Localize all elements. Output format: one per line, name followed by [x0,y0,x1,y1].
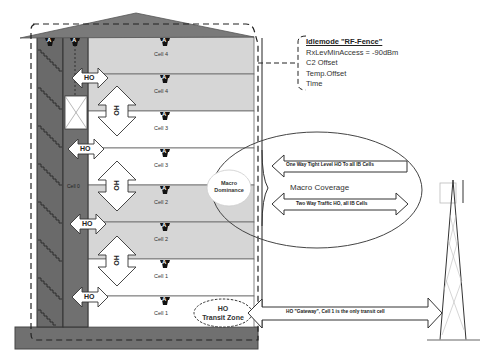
ho-label: HO [82,220,93,227]
text-layer: A A A A A A A A A A Cell 4 Cell 4 Cell 3… [0,0,496,364]
cell-label: Cell 1 [154,273,168,279]
antenna-label: A [72,37,76,43]
antenna-label: A [47,37,51,43]
elevator-cell-label: Cell 0 [67,183,80,189]
cell-label: Cell 3 [154,162,168,168]
antenna-label: A [162,148,166,154]
antenna-label: A [162,111,166,117]
one-way-arrow-label: One Way Tight Level HO To all IB Cells [286,162,406,167]
ho-label-vertical: HO [113,105,120,116]
idlemode-info-box: Idlemode "RF-Fence" RxLevMinAccess = -90… [306,37,398,90]
transit-zone-line2: Transit Zone [196,313,250,322]
idlemode-line: C2 Offset [306,58,398,69]
idlemode-line: RxLevMinAccess = -90dBm [306,48,398,59]
antenna-label: A [162,74,166,80]
macro-dominance-line1: Macro [210,180,248,187]
cell-label: Cell 4 [154,88,168,94]
transit-zone-line1: HO [196,304,250,313]
ho-label: HO [84,74,95,81]
cell-label: Cell 3 [154,125,168,131]
idlemode-title: Idlemode "RF-Fence" [306,37,398,48]
macro-coverage-label: Macro Coverage [290,183,349,192]
transit-zone-label: HO Transit Zone [196,304,250,322]
idlemode-line: Temp.Offset [306,69,398,80]
macro-dominance-label: Macro Dominance [210,180,248,194]
cell-label: Cell 2 [154,199,168,205]
idlemode-line: Time [306,79,398,90]
cell-label: Cell 1 [154,310,168,316]
cell-label: Cell 2 [154,236,168,242]
gateway-arrow-label: HO "Gateway", Cell 1 is the only transit… [286,309,385,314]
antenna-label: A [162,222,166,228]
macro-dominance-line2: Dominance [210,187,248,194]
cell-label: Cell 4 [154,51,168,57]
ho-label-vertical: HO [113,255,120,266]
ho-label-vertical: HO [113,180,120,191]
antenna-label: A [162,37,166,43]
antenna-label: A [162,259,166,265]
antenna-label: A [162,185,166,191]
ho-label: HO [84,293,95,300]
two-way-arrow-label: Two Way Traffic HO, all IB Cells [296,201,396,206]
antenna-label: A [162,296,166,302]
ho-label: HO [80,145,91,152]
